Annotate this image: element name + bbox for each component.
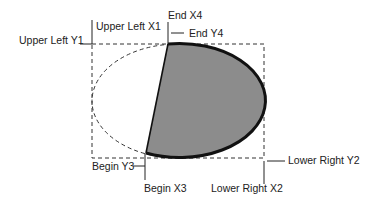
end-y4-label: End Y4 xyxy=(189,27,223,39)
end-x4-label: End X4 xyxy=(168,9,203,21)
begin-x3-label: Begin X3 xyxy=(144,182,187,194)
begin-y3-label: Begin Y3 xyxy=(92,160,135,172)
lower-right-x2-label: Lower Right X2 xyxy=(211,182,283,194)
upper-left-x1-label: Upper Left X1 xyxy=(96,20,161,32)
lower-right-y2-label: Lower Right Y2 xyxy=(288,154,360,166)
pie-arc-diagram: Upper Left X1 Upper Left Y1 End X4 End Y… xyxy=(0,0,367,202)
upper-left-y1-label: Upper Left Y1 xyxy=(19,34,84,46)
